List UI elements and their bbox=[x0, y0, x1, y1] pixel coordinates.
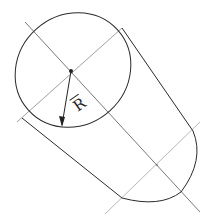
side-line-upper bbox=[122, 28, 193, 131]
far-center-mark bbox=[156, 164, 158, 166]
side-line-lower bbox=[22, 118, 122, 198]
centerline-bottom bbox=[105, 122, 200, 214]
arrowhead-icon bbox=[59, 116, 65, 127]
axis-line bbox=[25, 22, 200, 212]
centerline-top bbox=[17, 28, 122, 122]
bottom-ellipse-arc bbox=[122, 131, 197, 202]
radius-label: R bbox=[70, 94, 90, 116]
cylinder-diagram: R bbox=[0, 0, 216, 224]
top-ellipse bbox=[0, 0, 154, 151]
